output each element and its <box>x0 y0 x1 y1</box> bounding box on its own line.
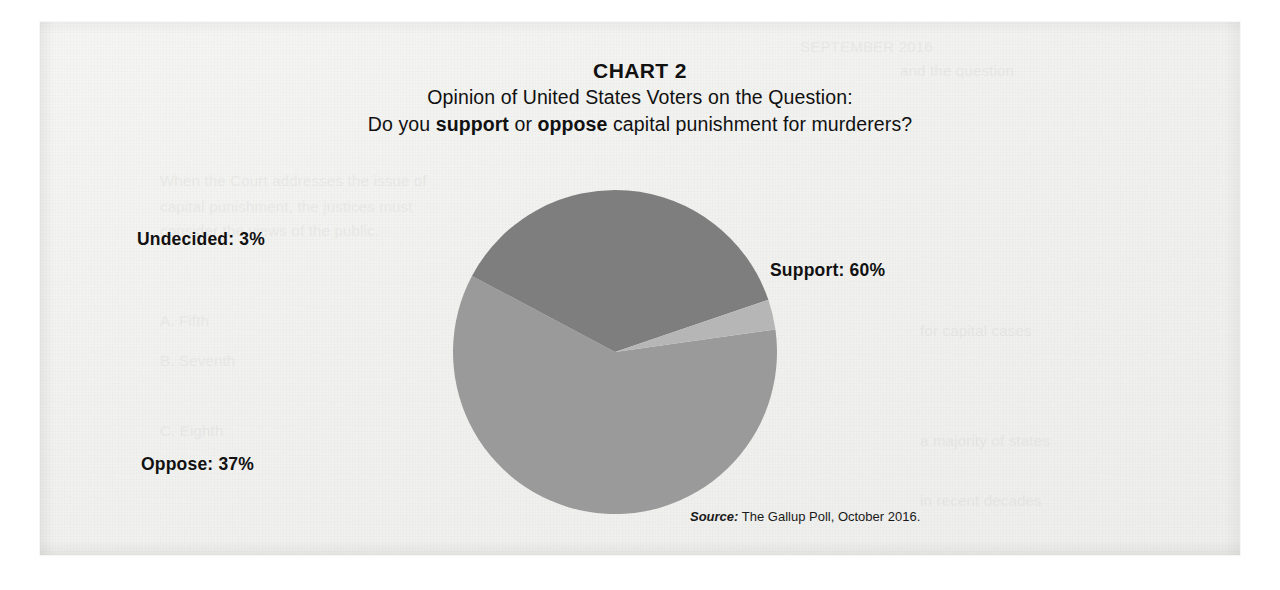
scanned-page-panel: SEPTEMBER 2016 and the question When the… <box>40 22 1240 555</box>
pie-slice-undecided <box>615 300 775 352</box>
chart-title-block: CHART 2 Opinion of United States Voters … <box>40 58 1240 138</box>
source-note: Source: The Gallup Poll, October 2016. <box>690 509 920 524</box>
source-text: The Gallup Poll, October 2016. <box>738 509 920 524</box>
page-canvas: SEPTEMBER 2016 and the question When the… <box>0 0 1280 590</box>
question-emphasis-oppose: oppose <box>538 113 608 135</box>
source-label: Source: <box>690 509 738 524</box>
question-middle: or <box>509 113 538 135</box>
pie-label-oppose: Oppose: 37% <box>141 454 254 475</box>
pie-slice-support <box>453 276 777 514</box>
pie-label-undecided: Undecided: 3% <box>137 229 265 250</box>
pie-slice-group <box>453 190 777 514</box>
chart-subtitle-line-2: Do you support or oppose capital punishm… <box>40 111 1240 138</box>
question-suffix: capital punishment for murderers? <box>607 113 912 135</box>
question-prefix: Do you <box>368 113 436 135</box>
chart-number-title: CHART 2 <box>40 58 1240 84</box>
pie-slice-oppose <box>472 190 768 352</box>
pie-label-support: Support: 60% <box>770 260 885 281</box>
chart-subtitle-line-1: Opinion of United States Voters on the Q… <box>40 84 1240 111</box>
question-emphasis-support: support <box>436 113 509 135</box>
